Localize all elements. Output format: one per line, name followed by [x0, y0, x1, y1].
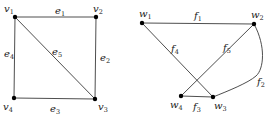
edge-e3 [14, 98, 95, 99]
edge-f2 [213, 24, 263, 97]
vertex-v3 [93, 97, 97, 101]
vertex-label-v3: v3 [98, 101, 108, 114]
vertex-w1 [140, 21, 144, 25]
edge-e2 [95, 17, 96, 99]
edge-label-f3: f3 [192, 101, 201, 114]
edge-label-f1: f1 [193, 10, 202, 23]
graph-g: e1e2e3e4e5v1v2v3v4 [3, 3, 110, 116]
vertex-label-v4: v4 [3, 101, 13, 114]
vertex-label-v2: v2 [93, 3, 103, 16]
vertex-w4 [179, 94, 183, 98]
edge-f1 [142, 23, 254, 24]
vertex-w2 [252, 22, 256, 26]
edge-label-e2: e2 [100, 52, 110, 65]
edge-e4 [14, 17, 15, 98]
vertex-label-w3: w3 [214, 100, 227, 113]
vertex-v4 [12, 96, 16, 100]
vertex-label-v1: v1 [4, 3, 14, 16]
edge-label-f5: f5 [222, 42, 231, 55]
vertex-v2 [94, 15, 98, 19]
edge-e5 [15, 17, 95, 99]
vertex-w3 [211, 95, 215, 99]
graph-h: f1f2f3f4f5w1w2w3w4 [139, 8, 265, 114]
edge-f5 [181, 24, 254, 96]
edge-label-e4: e4 [4, 48, 14, 61]
vertex-label-w4: w4 [170, 99, 183, 112]
edge-f3 [181, 96, 213, 97]
edge-label-e3: e3 [50, 103, 60, 116]
vertex-label-w2: w2 [251, 9, 264, 22]
edge-f4 [142, 23, 213, 97]
edge-label-e1: e1 [55, 5, 65, 18]
graph-diagram: e1e2e3e4e5v1v2v3v4 f1f2f3f4f5w1w2w3w4 [0, 0, 268, 119]
vertex-label-w1: w1 [139, 8, 152, 21]
edge-label-f2: f2 [256, 76, 265, 89]
